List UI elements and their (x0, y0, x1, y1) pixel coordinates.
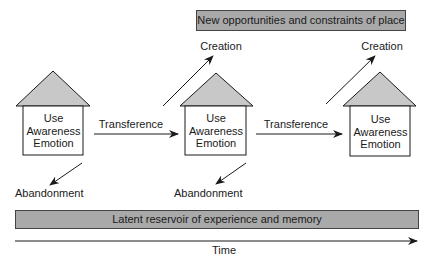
house-2-line-use: Use (185, 112, 247, 125)
abandonment-label-2: Abandonment (174, 187, 243, 200)
abandonment-arrow-1 (50, 163, 82, 185)
house-3-line-emotion: Emotion (350, 138, 411, 151)
house-1-line-awareness: Awareness (23, 125, 84, 138)
house-3-line-use: Use (350, 113, 411, 126)
bottom-banner: Latent reservoir of experience and memor… (15, 210, 419, 229)
creation-label-1: Creation (200, 40, 242, 53)
house-2-line-emotion: Emotion (185, 137, 247, 150)
roof-1 (16, 71, 90, 106)
house-1-text: Use Awareness Emotion (23, 112, 84, 150)
house-1-line-emotion: Emotion (23, 137, 84, 150)
abandonment-label-1: Abandonment (15, 187, 84, 200)
creation-label-2: Creation (361, 40, 403, 53)
transference-label-2: Transference (264, 118, 328, 131)
house-3-text: Use Awareness Emotion (350, 113, 411, 151)
abandonment-arrow-2 (216, 163, 246, 184)
house-2-text: Use Awareness Emotion (185, 112, 247, 150)
time-label: Time (212, 244, 236, 257)
house-2-line-awareness: Awareness (185, 125, 247, 138)
top-banner: New opportunities and constraints of pla… (196, 10, 406, 31)
house-3-line-awareness: Awareness (350, 126, 411, 139)
transference-label-1: Transference (99, 118, 163, 131)
house-1-line-use: Use (23, 112, 84, 125)
